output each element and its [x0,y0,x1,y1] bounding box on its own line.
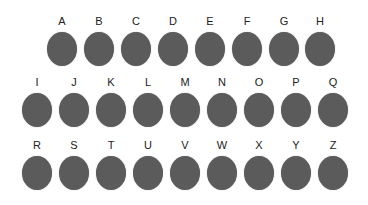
letter-label: E [194,15,226,28]
letter-item-z[interactable]: Z [317,139,349,195]
circle-button[interactable] [305,32,335,66]
letter-label: D [157,15,189,28]
circle-button[interactable] [207,156,237,190]
letter-item-g[interactable]: G [268,15,300,71]
letter-item-x[interactable]: X [243,139,275,195]
letter-item-n[interactable]: N [206,76,238,132]
letter-label: U [132,139,164,152]
letter-label: Y [280,139,312,152]
letter-label: V [169,139,201,152]
letter-item-u[interactable]: U [132,139,164,195]
letter-item-k[interactable]: K [95,76,127,132]
letter-item-q[interactable]: Q [317,76,349,132]
letter-item-w[interactable]: W [206,139,238,195]
letter-label: P [280,76,312,89]
circle-button[interactable] [244,156,274,190]
letter-item-j[interactable]: J [58,76,90,132]
letter-item-e[interactable]: E [194,15,226,71]
letter-label: M [169,76,201,89]
letter-item-m[interactable]: M [169,76,201,132]
circle-button[interactable] [269,32,299,66]
letter-label: Z [317,139,349,152]
circle-button[interactable] [170,156,200,190]
letter-label: G [268,15,300,28]
letter-item-t[interactable]: T [95,139,127,195]
letter-label: S [58,139,90,152]
letter-item-y[interactable]: Y [280,139,312,195]
circle-button[interactable] [318,93,348,127]
circle-button[interactable] [133,93,163,127]
circle-button[interactable] [281,156,311,190]
circle-button[interactable] [232,32,262,66]
letter-item-p[interactable]: P [280,76,312,132]
circle-button[interactable] [22,156,52,190]
letter-label: B [83,15,115,28]
circle-button[interactable] [96,93,126,127]
letter-label: A [46,15,78,28]
circle-button[interactable] [195,32,225,66]
circle-button[interactable] [22,93,52,127]
letter-item-o[interactable]: O [243,76,275,132]
circle-button[interactable] [170,93,200,127]
letter-label: R [21,139,53,152]
circle-button[interactable] [59,93,89,127]
letter-item-l[interactable]: L [132,76,164,132]
circle-button[interactable] [244,93,274,127]
circle-button[interactable] [96,156,126,190]
letter-label: W [206,139,238,152]
circle-button[interactable] [84,32,114,66]
letter-label: O [243,76,275,89]
circle-button[interactable] [318,156,348,190]
letter-label: K [95,76,127,89]
letter-label: X [243,139,275,152]
circle-button[interactable] [158,32,188,66]
letter-item-v[interactable]: V [169,139,201,195]
letter-label: N [206,76,238,89]
circle-button[interactable] [281,93,311,127]
letter-label: I [21,76,53,89]
letter-item-f[interactable]: F [231,15,263,71]
letter-item-a[interactable]: A [46,15,78,71]
letter-label: J [58,76,90,89]
circle-button[interactable] [207,93,237,127]
letter-item-d[interactable]: D [157,15,189,71]
circle-button[interactable] [47,32,77,66]
letter-item-b[interactable]: B [83,15,115,71]
letter-label: F [231,15,263,28]
letter-item-c[interactable]: C [120,15,152,71]
circle-button[interactable] [121,32,151,66]
circle-button[interactable] [133,156,163,190]
letter-label: Q [317,76,349,89]
letter-label: T [95,139,127,152]
letter-label: H [304,15,336,28]
letter-label: C [120,15,152,28]
letter-item-h[interactable]: H [304,15,336,71]
letter-label: L [132,76,164,89]
letter-item-r[interactable]: R [21,139,53,195]
letter-item-s[interactable]: S [58,139,90,195]
letter-item-i[interactable]: I [21,76,53,132]
circle-button[interactable] [59,156,89,190]
